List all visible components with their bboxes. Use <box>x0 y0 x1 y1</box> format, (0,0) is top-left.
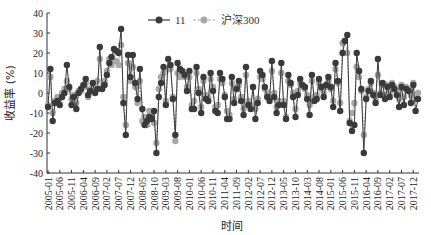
data-point <box>255 100 261 106</box>
data-point <box>297 76 303 82</box>
data-point <box>238 98 244 104</box>
data-point <box>196 90 202 96</box>
x-tick-label: 2017-12 <box>408 177 419 210</box>
data-point <box>370 92 376 98</box>
data-point <box>167 62 173 68</box>
legend-marker-icon <box>156 17 163 24</box>
data-point <box>139 106 145 112</box>
data-point <box>134 96 140 102</box>
data-point <box>222 94 228 100</box>
data-point <box>205 98 211 104</box>
data-point <box>306 112 312 118</box>
data-point <box>415 96 421 102</box>
data-point <box>375 72 381 78</box>
y-tick-label: -10 <box>30 108 43 119</box>
data-point <box>278 60 284 66</box>
data-point <box>198 110 204 116</box>
data-point <box>231 100 237 106</box>
y-tick-label: 40 <box>33 8 43 19</box>
data-point <box>200 74 206 80</box>
data-point <box>281 102 287 108</box>
data-point <box>165 56 171 62</box>
data-point <box>57 102 63 108</box>
data-point <box>269 58 275 64</box>
data-point <box>191 106 197 112</box>
data-point <box>349 128 355 134</box>
data-point <box>47 66 53 72</box>
x-tick-label: 2015-01 <box>325 177 336 210</box>
data-point <box>172 132 178 138</box>
data-point <box>80 82 86 88</box>
y-tick-label: -20 <box>30 128 43 139</box>
data-point <box>356 68 362 74</box>
data-point <box>262 84 268 90</box>
data-point <box>73 106 79 112</box>
data-point <box>170 96 176 102</box>
data-point <box>391 86 397 92</box>
legend-item-hs300[interactable]: 沪深300 <box>193 13 260 26</box>
series-11 <box>45 26 421 156</box>
data-point <box>45 104 51 110</box>
data-point <box>337 108 343 114</box>
data-point <box>217 70 223 76</box>
x-tick-label: 2012-07 <box>255 177 266 210</box>
data-point <box>219 76 225 82</box>
x-tick-label: 2006-04 <box>78 177 89 210</box>
data-point <box>387 94 393 100</box>
x-axis-title: 时间 <box>221 220 243 233</box>
x-tick-label: 2017-07 <box>396 177 407 210</box>
y-tick-label: 10 <box>33 68 43 79</box>
line-chart: 403020100-10-20-30-402005-012005-062005-… <box>0 0 431 235</box>
data-point <box>66 84 72 90</box>
data-point <box>358 86 364 92</box>
data-point <box>153 150 159 156</box>
data-point <box>283 116 289 122</box>
x-tick-label: 2015-06 <box>337 177 348 210</box>
y-tick-label: 30 <box>33 28 43 39</box>
data-point <box>90 80 96 86</box>
data-point <box>50 118 56 124</box>
x-tick-label: 2011-09 <box>231 177 242 210</box>
data-point <box>273 110 279 116</box>
data-point <box>250 84 256 90</box>
data-point <box>184 88 190 94</box>
x-tick-label: 2009-08 <box>172 177 183 210</box>
x-tick-label: 2014-08 <box>314 177 325 210</box>
data-point <box>229 74 235 80</box>
data-point <box>285 72 291 78</box>
data-point <box>174 60 180 66</box>
data-point <box>401 102 407 108</box>
data-point <box>372 100 378 106</box>
data-point <box>156 86 162 92</box>
data-point <box>314 96 320 102</box>
y-tick-label: -40 <box>30 168 43 179</box>
x-tick-label: 2005-01 <box>43 177 54 210</box>
x-tick-label: 2010-11 <box>207 177 218 210</box>
x-tick-label: 2005-11 <box>66 177 77 210</box>
data-point <box>304 96 310 102</box>
data-point <box>116 62 122 68</box>
x-tick-label: 2013-05 <box>278 177 289 210</box>
legend-item-11[interactable]: 11 <box>148 14 186 26</box>
data-point <box>344 32 350 38</box>
data-point <box>252 116 258 122</box>
data-point <box>156 94 162 100</box>
data-point <box>104 72 110 78</box>
data-point <box>361 132 367 138</box>
data-point <box>361 150 367 156</box>
data-point <box>151 108 157 114</box>
data-point <box>394 92 400 98</box>
y-tick-label: 0 <box>38 88 43 99</box>
x-tick-label: 2008-10 <box>149 177 160 210</box>
data-point <box>330 104 336 110</box>
data-point <box>240 112 246 118</box>
data-point <box>339 50 345 56</box>
x-tick-label: 2012-02 <box>243 177 254 210</box>
data-point <box>132 80 138 86</box>
data-point <box>233 86 239 92</box>
data-point <box>172 138 178 144</box>
legend-label: 沪深300 <box>221 13 260 26</box>
data-point <box>64 62 70 68</box>
x-tick-label: 2008-05 <box>137 177 148 210</box>
data-point <box>292 106 298 112</box>
